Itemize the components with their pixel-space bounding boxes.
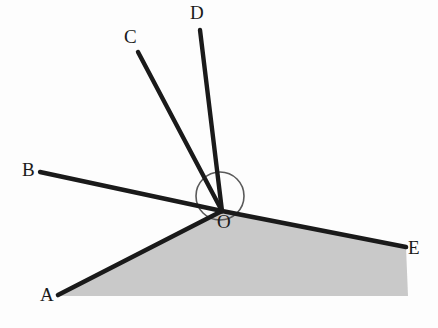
figure-canvas — [0, 0, 438, 328]
ray-OD — [200, 30, 222, 211]
vertex-label-c: C — [124, 27, 137, 46]
vertex-label-d: D — [190, 3, 204, 22]
ray-OC — [138, 52, 222, 211]
vertex-label-a: A — [40, 285, 54, 304]
shaded-region-AOE — [58, 211, 408, 296]
vertex-label-e: E — [408, 238, 420, 257]
vertex-label-o: O — [217, 212, 231, 231]
vertex-label-b: B — [22, 160, 35, 179]
ray-OB — [40, 172, 222, 211]
geometry-figure: A B C D E O — [0, 0, 438, 328]
